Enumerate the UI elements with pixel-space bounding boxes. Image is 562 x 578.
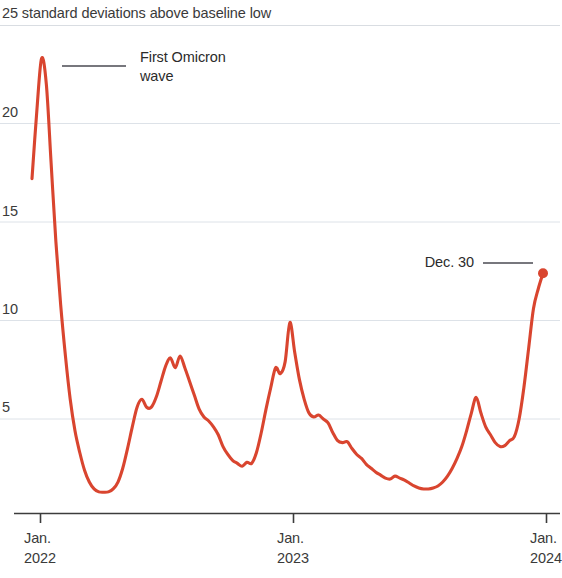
data-line-wastewater — [32, 58, 543, 493]
annotation-omicron-line2: wave — [140, 67, 226, 86]
x-axis-label-2024-year: 2024 — [530, 548, 562, 568]
x-axis-label-2024: Jan. 2024 — [530, 528, 562, 568]
x-axis-label-2022-month: Jan. — [24, 528, 56, 548]
endpoint-marker-dec-30 — [538, 268, 548, 278]
x-axis-label-2023-month: Jan. — [277, 528, 309, 548]
x-axis-label-2022-year: 2022 — [24, 548, 56, 568]
annotation-first-omicron-wave: First Omicron wave — [140, 48, 226, 86]
x-axis-label-2023-year: 2023 — [277, 548, 309, 568]
x-axis-label-2024-month: Jan. — [530, 528, 562, 548]
x-axis-label-2022: Jan. 2022 — [24, 528, 56, 568]
x-axis-label-2023: Jan. 2023 — [277, 528, 309, 568]
annotation-omicron-line1: First Omicron — [140, 48, 226, 67]
annotation-dec-30: Dec. 30 — [334, 253, 474, 272]
